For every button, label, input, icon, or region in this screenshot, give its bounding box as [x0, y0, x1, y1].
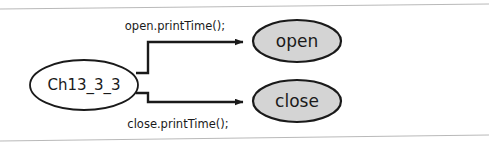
- edge-close-path: [136, 93, 243, 102]
- edge-close-label: close.printTime();: [127, 117, 228, 131]
- source-label: Ch13_3_3: [47, 76, 120, 95]
- edge-open-label: open.printTime();: [125, 19, 225, 33]
- edge-close: close.printTime();: [127, 93, 243, 131]
- node-source[interactable]: Ch13_3_3: [30, 60, 138, 110]
- close-label: close: [275, 91, 319, 111]
- diagram-canvas: open.printTime(); close.printTime(); Ch1…: [0, 0, 489, 149]
- page-border-bottom: [0, 135, 489, 141]
- edge-open: open.printTime();: [125, 19, 243, 73]
- node-open[interactable]: open: [253, 20, 341, 62]
- call-graph-diagram: open.printTime(); close.printTime(); Ch1…: [0, 0, 489, 149]
- open-label: open: [276, 31, 318, 51]
- page-border-top: [0, 4, 489, 9]
- edge-open-path: [136, 42, 243, 73]
- node-close[interactable]: close: [253, 80, 341, 122]
